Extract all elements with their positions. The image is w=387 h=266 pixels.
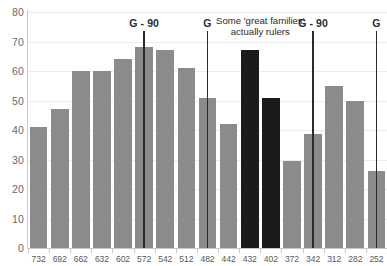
bar-692 bbox=[51, 109, 69, 248]
x-tick-mark bbox=[218, 249, 219, 253]
x-tick-label-632: 632 bbox=[95, 255, 109, 264]
x-tick-mark bbox=[155, 249, 156, 253]
x-tick-mark bbox=[281, 249, 282, 253]
y-tick-label-10: 10 bbox=[0, 214, 24, 224]
bar-602 bbox=[114, 59, 132, 248]
y-tick-label-20: 20 bbox=[0, 184, 24, 194]
bar-312 bbox=[325, 86, 343, 248]
bar-282 bbox=[346, 101, 364, 249]
x-tick-label-692: 692 bbox=[53, 255, 67, 264]
y-tick-label-30: 30 bbox=[0, 155, 24, 165]
bar-402 bbox=[262, 98, 280, 248]
marker-g-90-third-line bbox=[312, 31, 313, 248]
bar-662 bbox=[72, 71, 90, 248]
x-tick-label-372: 372 bbox=[285, 255, 299, 264]
bar-632 bbox=[93, 71, 111, 248]
bar-442 bbox=[220, 124, 238, 248]
x-tick-label-342: 342 bbox=[306, 255, 320, 264]
x-tick-label-662: 662 bbox=[74, 255, 88, 264]
x-tick-label-402: 402 bbox=[264, 255, 278, 264]
x-tick-label-312: 312 bbox=[327, 255, 341, 264]
x-tick-label-442: 442 bbox=[222, 255, 236, 264]
x-axis-line bbox=[27, 248, 387, 249]
y-tick-label-60: 60 bbox=[0, 66, 24, 76]
marker-g-fourth-label: G bbox=[372, 17, 380, 29]
x-tick-mark bbox=[112, 249, 113, 253]
x-tick-mark bbox=[176, 249, 177, 253]
marker-g-fourth-line bbox=[376, 31, 377, 248]
x-tick-mark bbox=[70, 249, 71, 253]
bar-372 bbox=[283, 161, 301, 248]
bar-542 bbox=[156, 50, 174, 248]
x-tick-mark bbox=[303, 249, 304, 253]
marker-g-90-first-label: G - 90 bbox=[129, 17, 159, 29]
bar-432 bbox=[241, 50, 259, 248]
x-tick-label-602: 602 bbox=[116, 255, 130, 264]
x-tick-mark bbox=[49, 249, 50, 253]
marker-g-second-line bbox=[207, 31, 208, 248]
marker-g-90-first-line bbox=[143, 31, 144, 248]
x-tick-mark bbox=[260, 249, 261, 253]
x-tick-mark bbox=[28, 249, 29, 253]
x-tick-label-542: 542 bbox=[158, 255, 172, 264]
x-tick-mark bbox=[324, 249, 325, 253]
y-tick-label-80: 80 bbox=[0, 7, 24, 17]
marker-g-second-label: G bbox=[203, 17, 211, 29]
x-tick-label-572: 572 bbox=[137, 255, 151, 264]
y-tick-label-40: 40 bbox=[0, 125, 24, 135]
annotation-note-line1: Some 'great families' bbox=[216, 15, 304, 26]
y-tick-label-50: 50 bbox=[0, 96, 24, 106]
x-tick-mark bbox=[91, 249, 92, 253]
y-tick-label-70: 70 bbox=[0, 37, 24, 47]
x-tick-label-252: 252 bbox=[369, 255, 383, 264]
annotation-note: Some 'great families' actually rulers bbox=[216, 16, 304, 37]
x-tick-mark bbox=[197, 249, 198, 253]
x-tick-label-512: 512 bbox=[179, 255, 193, 264]
bar-732 bbox=[30, 127, 48, 248]
annotation-note-line2: actually rulers bbox=[231, 26, 290, 37]
x-tick-mark bbox=[366, 249, 367, 253]
x-tick-label-282: 282 bbox=[348, 255, 362, 264]
x-tick-mark bbox=[345, 249, 346, 253]
x-tick-mark bbox=[239, 249, 240, 253]
bar-512 bbox=[178, 68, 196, 248]
x-tick-label-432: 432 bbox=[243, 255, 257, 264]
y-tick-label-0: 0 bbox=[0, 243, 24, 253]
x-tick-label-482: 482 bbox=[200, 255, 214, 264]
bar-chart: 80 70 60 50 40 30 20 10 0 73269266263260… bbox=[0, 0, 387, 266]
x-tick-mark bbox=[134, 249, 135, 253]
x-tick-label-732: 732 bbox=[32, 255, 46, 264]
